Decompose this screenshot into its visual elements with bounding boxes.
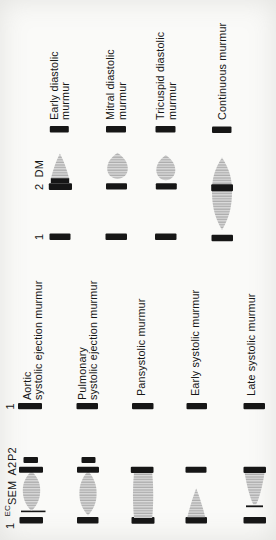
mid-systolic-click-line bbox=[246, 505, 263, 507]
p2-label: P2 bbox=[7, 447, 18, 461]
early-diastolic-diagram bbox=[49, 126, 72, 240]
mitral-diastolic-diagram bbox=[106, 126, 128, 240]
early-diastolic-murmur-shape bbox=[51, 153, 69, 178]
next-s1-bar bbox=[77, 403, 99, 409]
s1-bar bbox=[77, 517, 99, 524]
a2-bar bbox=[131, 467, 154, 473]
s1-start-label: 1 bbox=[5, 523, 16, 529]
s1-bar bbox=[212, 235, 234, 242]
next-s1-bar bbox=[244, 403, 266, 409]
s1-bar bbox=[186, 517, 208, 524]
ec-label: EC bbox=[4, 505, 12, 517]
murmur-diagrams bbox=[0, 0, 276, 540]
tricuspid-diastolic-murmur-shape bbox=[156, 155, 175, 180]
s1-bar bbox=[244, 517, 267, 524]
label-line: Tricuspid diastolic bbox=[155, 32, 167, 120]
s1-bar bbox=[50, 234, 71, 241]
label-line: systolic ejection murmur bbox=[88, 281, 100, 400]
a2-bar bbox=[244, 467, 267, 473]
tricuspid-diastolic-diagram bbox=[155, 126, 177, 240]
p2-bar bbox=[24, 457, 39, 463]
label-early-diastolic: Early diastolic murmur bbox=[49, 51, 72, 120]
s2-bar bbox=[106, 183, 127, 189]
s1-bar bbox=[106, 234, 128, 241]
next-s1-bar bbox=[187, 403, 208, 409]
murmur-base-block bbox=[51, 178, 69, 183]
label-line: Continuous murmur bbox=[217, 23, 229, 120]
label-tricuspid-diastolic: Tricuspid diastolic murmur bbox=[155, 32, 178, 120]
continuous-murmur-diagram bbox=[211, 127, 233, 242]
late-systolic-murmur-shape bbox=[245, 473, 265, 505]
sem-label: SEM bbox=[7, 481, 18, 505]
a2-bar bbox=[77, 467, 99, 473]
label-line: murmur bbox=[60, 51, 72, 120]
pansystolic-murmur-shape bbox=[133, 473, 153, 519]
figure-stage: 1 EC SEM A2 P2 1 1 2 DM Aortic systolic … bbox=[0, 0, 276, 540]
next-s1-bar bbox=[106, 126, 126, 133]
pansystolic-diagram bbox=[131, 403, 155, 524]
s2-bar bbox=[156, 183, 177, 189]
dm-label: DM bbox=[34, 160, 45, 178]
next-s1-bar bbox=[212, 127, 232, 134]
s1-bar bbox=[20, 517, 44, 524]
label-continuous-murmur: Continuous murmur bbox=[217, 23, 229, 120]
scanned-murmur-figure: 1 EC SEM A2 P2 1 1 2 DM Aortic systolic … bbox=[0, 0, 276, 540]
s1-bar bbox=[155, 234, 177, 241]
next-s1-bar bbox=[18, 403, 42, 409]
label-line: Early systolic murmur bbox=[190, 290, 202, 396]
label-line: murmur bbox=[117, 49, 129, 120]
ejection-click-line bbox=[21, 511, 46, 513]
label-early-systolic: Early systolic murmur bbox=[190, 290, 202, 396]
next-s1-bar bbox=[50, 126, 69, 133]
label-line: systolic ejection murmur bbox=[33, 281, 45, 400]
a2-label: A2 bbox=[7, 462, 18, 476]
p2-bar bbox=[82, 457, 96, 463]
s2-label: 2 bbox=[34, 184, 45, 190]
label-late-systolic: Late systolic murmur bbox=[246, 293, 258, 396]
label-line: Late systolic murmur bbox=[246, 293, 258, 396]
sem-murmur-shape bbox=[79, 471, 96, 516]
s2-bar bbox=[211, 184, 233, 191]
s1-label: 1 bbox=[34, 234, 45, 240]
pulmonary-sem-diagram bbox=[77, 403, 100, 524]
next-s1-bar bbox=[132, 403, 154, 409]
s2-bar bbox=[49, 183, 72, 190]
mitral-diastolic-murmur-shape bbox=[107, 153, 128, 179]
continuous-murmur-shape bbox=[212, 158, 232, 231]
late-systolic-diagram bbox=[244, 403, 267, 524]
label-aortic-sem: Aortic systolic ejection murmur bbox=[22, 281, 45, 400]
aortic-sem-diagram bbox=[18, 403, 46, 524]
early-systolic-murmur-shape bbox=[187, 488, 205, 517]
label-line: Mitral diastolic bbox=[105, 49, 117, 120]
label-line: Pansystolic murmur bbox=[136, 299, 148, 397]
label-pulmonary-sem: Pulmonary systolic ejection murmur bbox=[77, 281, 100, 400]
early-systolic-diagram bbox=[186, 403, 208, 524]
s2-bar bbox=[186, 467, 207, 473]
next-s1-bar bbox=[156, 126, 176, 133]
a2-bar bbox=[19, 467, 43, 473]
label-mitral-diastolic: Mitral diastolic murmur bbox=[105, 49, 128, 120]
label-pansystolic: Pansystolic murmur bbox=[136, 299, 148, 397]
sem-murmur-shape bbox=[23, 471, 40, 511]
label-line: murmur bbox=[167, 32, 179, 120]
s1-end-label: 1 bbox=[5, 403, 16, 409]
